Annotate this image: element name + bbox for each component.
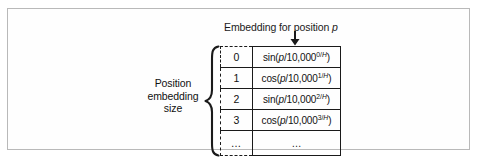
table-row: 3 cos(p/10,0003/H) [221,110,341,131]
header-caption: Embedding for position p [224,21,394,33]
header-caption-text: Embedding for position [224,21,332,33]
formula-func: cos [262,115,277,126]
position-embedding-size-label: Position embedding size [136,77,210,115]
formula-close-paren: ) [327,94,330,105]
row-formula-cell: … [253,131,341,156]
embedding-table: 0 sin(p/10,0000/H) 1 cos(p/10,0001/H) 2 … [220,46,341,156]
row-formula-cell: sin(p/10,0000/H) [253,47,341,68]
formula-exponent: 0/H [316,50,327,57]
formula-exponent: 3/H [318,113,329,120]
header-caption-variable: p [332,21,338,33]
row-index-cell: 3 [221,110,253,131]
formula-close-paren: ) [328,73,331,84]
table-row: 2 sin(p/10,0002/H) [221,89,341,110]
formula-divider: /10,000 [285,73,317,84]
formula-func: cos [262,73,277,84]
formula-divider: /10,000 [285,115,317,126]
formula-exponent: 2/H [316,92,327,99]
figure-frame: Embedding for position p Position embedd… [7,8,470,150]
size-label-line-1: Position [136,77,210,90]
curly-brace-icon [204,45,220,157]
row-index-cell: 1 [221,68,253,89]
row-formula-cell: sin(p/10,0002/H) [253,89,341,110]
size-label-line-2: embedding [136,90,210,103]
formula-close-paren: ) [328,115,331,126]
row-formula-cell: cos(p/10,0001/H) [253,68,341,89]
down-arrow-icon [289,31,301,46]
row-index-cell: … [221,131,253,156]
row-index-cell: 0 [221,47,253,68]
row-formula-cell: cos(p/10,0003/H) [253,110,341,131]
table-row: 0 sin(p/10,0000/H) [221,47,341,68]
size-label-line-3: size [136,102,210,115]
row-index-cell: 2 [221,89,253,110]
table-row: 1 cos(p/10,0001/H) [221,68,341,89]
table-row: … … [221,131,341,156]
formula-close-paren: ) [327,52,330,63]
formula-divider: /10,000 [284,52,316,63]
formula-func: sin [263,94,275,105]
formula-exponent: 1/H [318,71,329,78]
formula-divider: /10,000 [284,94,316,105]
embedding-table-body: 0 sin(p/10,0000/H) 1 cos(p/10,0001/H) 2 … [221,47,341,156]
formula-func: sin [263,52,275,63]
